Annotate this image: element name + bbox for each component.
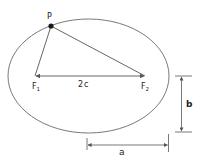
line-p-to-f2 [51,26,145,76]
semi-major-label: a [119,147,125,157]
ellipse-diagram: P F1 F2 2c b a [0,0,197,162]
focal-distance-label: 2c [78,80,90,89]
point-p-dot [48,23,53,28]
focus-1-label: F1 [32,82,40,92]
focus-2-label: F2 [141,82,149,92]
semi-minor-label: b [186,99,193,109]
point-p-label: P [47,12,52,21]
line-p-to-f1 [35,26,51,76]
